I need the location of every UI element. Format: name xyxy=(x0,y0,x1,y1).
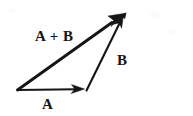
diagram-background xyxy=(0,0,193,116)
vector-diagram-canvas xyxy=(0,0,193,116)
vector-a-shaft xyxy=(18,89,77,90)
vector-b-label: B xyxy=(117,53,127,68)
vector-sum-label: A + B xyxy=(35,29,74,44)
vector-a-label: A xyxy=(42,97,53,112)
vector-addition-figure: A + B B A xyxy=(0,0,193,116)
